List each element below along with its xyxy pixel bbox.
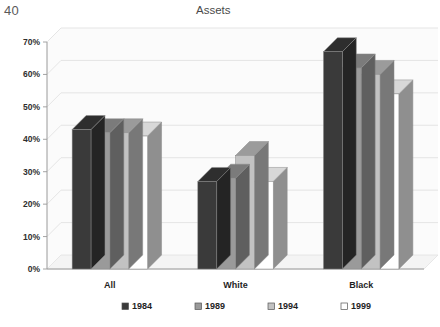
bar-side [361,54,375,269]
legend-swatch-1984 [122,303,129,310]
bar-side [148,122,162,269]
bar-chart-3d: 0%10%20%30%40%50%60%70%AllWhiteBlack [0,0,440,327]
bar-front [198,181,217,269]
bar-side [380,60,394,269]
bar-front [72,130,91,269]
x-axis-label-white: White [223,280,248,290]
legend-label-1999: 1999 [351,301,371,311]
legend-item-1989[interactable]: 1989 [195,301,225,311]
x-axis-label-black: Black [349,280,374,290]
y-tick-label: 70% [23,37,40,47]
legend-swatch-1999 [341,303,348,310]
legend-label-1989: 1989 [205,301,225,311]
bar-front [323,52,342,269]
y-tick-label: 20% [23,199,40,209]
bar-black-1984 [323,38,356,269]
legend-item-1994[interactable]: 1994 [268,301,298,311]
y-tick-label: 40% [23,134,40,144]
y-tick-label: 10% [23,232,40,242]
legend-label-1984: 1984 [132,301,152,311]
bar-side [399,80,413,269]
bar-side [273,167,287,269]
bar-side [254,142,268,270]
bar-side [91,116,105,269]
bar-side [342,38,356,269]
legend-swatch-1994 [268,303,275,310]
bar-side [129,119,143,269]
y-tick-label: 50% [23,102,40,112]
chart-legend: 1984198919941999 [0,297,440,327]
chart-page: 40 Assets 0%10%20%30%40%50%60%70%AllWhit… [0,0,440,327]
bar-all-1984 [72,116,105,269]
y-tick-label: 30% [23,167,40,177]
x-axis-label-all: All [104,280,116,290]
bar-side [110,119,124,269]
y-tick-label: 0% [28,264,41,274]
y-tick-label: 60% [23,69,40,79]
legend-swatch-1989 [195,303,202,310]
legend-label-1994: 1994 [278,301,298,311]
legend-item-1999[interactable]: 1999 [341,301,371,311]
bar-white-1984 [198,167,231,269]
legend-item-1984[interactable]: 1984 [122,301,152,311]
bar-side [217,167,231,269]
bar-side [236,164,250,269]
